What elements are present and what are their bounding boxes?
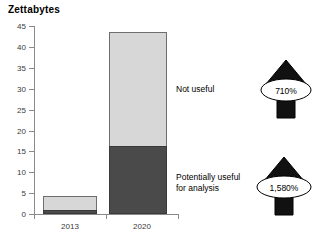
y-tick: [29, 68, 34, 69]
chart-figure: Zettabytes 0 5 10 15 20 25 30 35 40 45 2…: [0, 0, 320, 246]
y-tick-label: 45: [17, 22, 26, 31]
annotation-not-useful: Not useful: [176, 84, 214, 95]
annotation-potentially-useful: Potentially useful for analysis: [176, 172, 240, 194]
y-tick-label: 20: [17, 127, 26, 136]
y-axis-line: [34, 26, 35, 215]
callout-not-useful-growth: 710%: [258, 58, 314, 120]
x-tick: [34, 215, 35, 219]
x-tick-label-2020: 2020: [114, 222, 170, 231]
y-tick: [29, 172, 34, 173]
y-tick: [29, 26, 34, 27]
bar-segment-potentially-useful: [109, 146, 167, 214]
chart-title: Zettabytes: [8, 4, 60, 15]
y-tick-label: 5: [22, 189, 26, 198]
y-tick-label: 0: [22, 210, 26, 219]
y-tick: [29, 110, 34, 111]
callout-value: 710%: [258, 86, 314, 96]
y-tick-label: 10: [17, 168, 26, 177]
x-tick: [178, 215, 179, 219]
y-tick-label: 15: [17, 147, 26, 156]
x-tick: [106, 215, 107, 219]
y-tick-label: 30: [17, 85, 26, 94]
y-tick-label: 25: [17, 106, 26, 115]
y-tick: [29, 89, 34, 90]
y-tick: [29, 47, 34, 48]
x-tick-label-2013: 2013: [42, 222, 98, 231]
bar-2013: [43, 196, 97, 214]
bar-segment-potentially-useful: [43, 210, 97, 214]
callout-value: 1,580%: [256, 183, 312, 193]
callout-potentially-useful-growth: 1,580%: [256, 155, 312, 217]
bar-segment-not-useful: [109, 32, 167, 147]
bar-2020: [109, 32, 167, 214]
y-tick: [29, 131, 34, 132]
y-tick: [29, 151, 34, 152]
y-tick-label: 40: [17, 43, 26, 52]
y-tick: [29, 193, 34, 194]
y-tick-label: 35: [17, 64, 26, 73]
